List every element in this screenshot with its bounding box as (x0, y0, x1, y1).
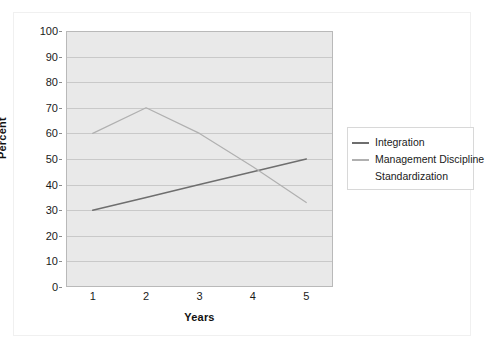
legend-swatch-icon (352, 159, 369, 161)
legend-label: Standardization (375, 171, 448, 182)
legend-swatch-icon (352, 176, 369, 178)
legend-item-integration[interactable]: Integration (352, 134, 469, 151)
legend-swatch-icon (352, 142, 369, 144)
legend: IntegrationManagement DisciplineStandard… (347, 127, 474, 190)
legend-item-management-discipline[interactable]: Management Discipline (352, 151, 469, 168)
legend-label: Integration (375, 137, 425, 148)
series-line-management-discipline (93, 108, 307, 203)
series-layer (93, 108, 307, 210)
legend-label: Management Discipline (375, 154, 484, 165)
series-line-integration (93, 159, 307, 210)
legend-item-standardization[interactable]: Standardization (352, 168, 469, 185)
